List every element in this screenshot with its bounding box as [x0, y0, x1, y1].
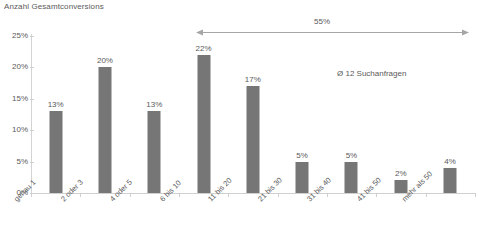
x-axis-tick-mark: [130, 193, 131, 197]
chart-title: Anzahl Gesamtconversions: [4, 2, 104, 11]
bar-group[interactable]: 5%: [327, 36, 376, 193]
bar-value-label: 17%: [245, 75, 261, 84]
plot-area: 13% 20% 13% 22% 17% 5% 5% 2% 4%: [31, 36, 475, 193]
y-axis-tick-label: 20%: [12, 62, 28, 71]
bar-group[interactable]: 5%: [278, 36, 327, 193]
x-axis-tick-mark: [475, 193, 476, 197]
bar-value-label: 22%: [196, 44, 212, 53]
y-axis-tick-label: 10%: [12, 125, 28, 134]
bar[interactable]: [345, 162, 358, 193]
average-note-label: Ø 12 Suchanfragen: [337, 69, 406, 78]
bar-value-label: 5%: [346, 151, 358, 160]
bar[interactable]: [49, 111, 62, 193]
bar-group[interactable]: 20%: [80, 36, 129, 193]
y-axis-tick-label: 25%: [12, 31, 28, 40]
bar[interactable]: [98, 67, 111, 193]
y-axis-tick-label: 5%: [16, 157, 28, 166]
bar-value-label: 5%: [296, 151, 308, 160]
bar[interactable]: [148, 111, 161, 193]
bar-group[interactable]: 22%: [179, 36, 228, 193]
y-axis-tick-label: 15%: [12, 94, 28, 103]
x-axis-tick-mark: [376, 193, 377, 197]
bar[interactable]: [197, 55, 210, 193]
x-axis-tick-mark: [80, 193, 81, 197]
x-axis-tick-mark: [31, 193, 32, 197]
bar[interactable]: [444, 168, 457, 193]
bar-value-label: 20%: [97, 56, 113, 65]
bar[interactable]: [296, 162, 309, 193]
bar-group[interactable]: 13%: [130, 36, 179, 193]
x-axis-tick-mark: [278, 193, 279, 197]
range-arrow-icon: [196, 28, 469, 37]
x-axis-tick-mark: [179, 193, 180, 197]
bar-value-label: 4%: [444, 157, 456, 166]
range-arrow-label: 55%: [314, 17, 330, 26]
bar-value-label: 13%: [146, 100, 162, 109]
x-axis-tick-mark: [228, 193, 229, 197]
bar-value-label: 2%: [395, 169, 407, 178]
bar-group[interactable]: 17%: [228, 36, 277, 193]
x-axis-tick-mark: [426, 193, 427, 197]
bar-group[interactable]: 4%: [425, 36, 474, 193]
bar[interactable]: [246, 86, 259, 193]
bar-value-label: 13%: [48, 100, 64, 109]
bar-group[interactable]: 13%: [31, 36, 80, 193]
bar-group[interactable]: 2%: [376, 36, 425, 193]
x-axis-tick-mark: [327, 193, 328, 197]
